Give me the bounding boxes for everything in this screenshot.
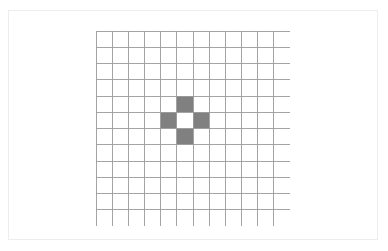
grid-cell[interactable] (112, 31, 128, 47)
grid-cell[interactable] (209, 96, 225, 112)
grid-cell[interactable] (258, 161, 274, 177)
grid-cell[interactable] (209, 47, 225, 63)
grid-cell[interactable] (225, 64, 241, 80)
grid-cell[interactable] (128, 145, 144, 161)
grid-cell[interactable] (161, 145, 177, 161)
grid-cell[interactable] (161, 129, 177, 145)
grid-cell[interactable] (209, 31, 225, 47)
grid-cell[interactable] (225, 210, 241, 226)
grid-cell[interactable] (242, 210, 258, 226)
grid-cell[interactable] (193, 64, 209, 80)
grid-cell[interactable] (161, 161, 177, 177)
grid-cell[interactable] (274, 161, 290, 177)
grid-cell[interactable] (161, 80, 177, 96)
grid-cell[interactable] (193, 47, 209, 63)
grid-cell[interactable] (112, 64, 128, 80)
grid-cell[interactable] (112, 112, 128, 128)
grid-cell[interactable] (225, 47, 241, 63)
grid-cell[interactable] (209, 194, 225, 210)
grid-cell[interactable] (193, 96, 209, 112)
grid-cell[interactable] (193, 161, 209, 177)
grid-cell[interactable] (274, 112, 290, 128)
grid-cell[interactable] (177, 112, 193, 128)
grid-cell[interactable] (112, 80, 128, 96)
grid-cell[interactable] (112, 145, 128, 161)
grid-cell[interactable] (225, 145, 241, 161)
grid-cell[interactable] (242, 194, 258, 210)
grid-cell[interactable] (193, 80, 209, 96)
grid-cell[interactable] (161, 31, 177, 47)
grid-cell[interactable] (128, 112, 144, 128)
grid-cell[interactable] (145, 129, 161, 145)
grid-cell[interactable] (112, 96, 128, 112)
grid-cell[interactable] (145, 145, 161, 161)
grid-cell[interactable] (274, 96, 290, 112)
grid-cell[interactable] (274, 210, 290, 226)
grid-cell[interactable] (225, 177, 241, 193)
grid-cell[interactable] (128, 177, 144, 193)
grid-cell[interactable] (258, 210, 274, 226)
grid-cell[interactable] (274, 129, 290, 145)
grid-cell[interactable] (96, 129, 112, 145)
grid-cell[interactable] (193, 31, 209, 47)
grid-cell[interactable] (177, 145, 193, 161)
grid-cell[interactable] (209, 177, 225, 193)
grid-cell[interactable] (274, 177, 290, 193)
grid-cell[interactable] (209, 80, 225, 96)
grid-cell[interactable] (161, 96, 177, 112)
grid-cell[interactable] (258, 96, 274, 112)
grid-cell[interactable] (145, 80, 161, 96)
grid-cell[interactable] (242, 64, 258, 80)
grid-cell[interactable] (128, 161, 144, 177)
grid-cell[interactable] (209, 145, 225, 161)
grid-cell[interactable] (177, 210, 193, 226)
grid-cell[interactable] (193, 112, 209, 128)
grid-cell[interactable] (96, 80, 112, 96)
grid-cell[interactable] (161, 47, 177, 63)
grid-cell[interactable] (274, 80, 290, 96)
grid-cell[interactable] (225, 112, 241, 128)
grid-cell[interactable] (177, 80, 193, 96)
grid-cell[interactable] (274, 31, 290, 47)
grid-cell[interactable] (258, 194, 274, 210)
grid-cell[interactable] (145, 194, 161, 210)
grid-cell[interactable] (242, 112, 258, 128)
grid-cell[interactable] (128, 194, 144, 210)
grid-cell[interactable] (145, 112, 161, 128)
grid-cell[interactable] (258, 80, 274, 96)
grid-cell[interactable] (242, 177, 258, 193)
grid-cell[interactable] (242, 129, 258, 145)
grid-cell[interactable] (225, 161, 241, 177)
grid-cell[interactable] (177, 129, 193, 145)
grid-cell[interactable] (145, 31, 161, 47)
grid-cell[interactable] (193, 194, 209, 210)
grid-cell[interactable] (177, 177, 193, 193)
grid-cell[interactable] (209, 112, 225, 128)
grid-cell[interactable] (145, 47, 161, 63)
grid-cell[interactable] (177, 96, 193, 112)
grid-cell[interactable] (128, 64, 144, 80)
grid-cell[interactable] (112, 194, 128, 210)
grid-cell[interactable] (258, 145, 274, 161)
grid-cell[interactable] (96, 112, 112, 128)
grid-cell[interactable] (145, 161, 161, 177)
grid-cell[interactable] (96, 31, 112, 47)
grid-cell[interactable] (177, 64, 193, 80)
grid-cell[interactable] (242, 161, 258, 177)
grid-cell[interactable] (258, 129, 274, 145)
grid-cell[interactable] (96, 161, 112, 177)
grid-cell[interactable] (177, 47, 193, 63)
grid-cell[interactable] (128, 80, 144, 96)
grid-cell[interactable] (128, 129, 144, 145)
grid-cell[interactable] (96, 64, 112, 80)
grid-cell[interactable] (242, 145, 258, 161)
grid-cell[interactable] (96, 210, 112, 226)
grid-cell[interactable] (193, 177, 209, 193)
grid-cell[interactable] (145, 177, 161, 193)
grid-cell[interactable] (112, 129, 128, 145)
grid-cell[interactable] (161, 177, 177, 193)
grid-cell[interactable] (258, 112, 274, 128)
grid-cell[interactable] (225, 194, 241, 210)
grid-cell[interactable] (258, 177, 274, 193)
grid-cell[interactable] (177, 194, 193, 210)
